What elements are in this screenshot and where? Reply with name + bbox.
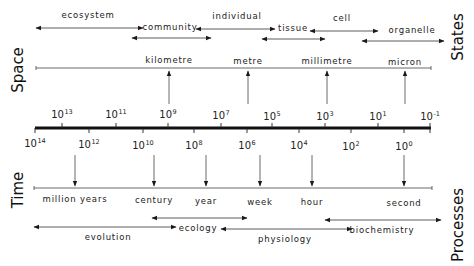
processes-axis-label: Processes xyxy=(451,188,466,262)
state-label-cell: cell xyxy=(333,14,351,23)
exponent-label-14: 1014 xyxy=(24,138,46,149)
exponent-label-0: 100 xyxy=(395,141,412,152)
exponent-label-12: 1012 xyxy=(78,139,100,150)
states-axis-label: States xyxy=(451,13,466,61)
exponent-label-8: 108 xyxy=(185,140,202,151)
exponent-label-3: 103 xyxy=(316,111,333,122)
state-label-tissue: tissue xyxy=(278,24,308,33)
time-unit-second: second xyxy=(386,199,421,208)
exponent-label-9: 109 xyxy=(159,109,176,120)
space-unit-millimetre: millimetre xyxy=(301,57,352,66)
log-axis xyxy=(35,123,431,133)
state-label-ecosystem: ecosystem xyxy=(61,11,114,20)
space-scale xyxy=(36,66,431,104)
space-time-scale-diagram: Space States Time Processes ecosystem co… xyxy=(0,0,474,266)
exponent-label-13: 1013 xyxy=(51,109,73,120)
time-unit-week: week xyxy=(247,198,273,207)
process-label-evolution: evolution xyxy=(85,233,132,242)
exponent-label-11: 1011 xyxy=(105,109,127,120)
process-label-biochemistry: biochemistry xyxy=(350,226,415,235)
time-unit-hour: hour xyxy=(301,198,324,207)
state-label-individual: individual xyxy=(212,12,261,21)
space-axis-label: Space xyxy=(11,47,26,93)
time-axis-label: Time xyxy=(11,172,26,209)
exponent-label-2: 102 xyxy=(342,141,359,152)
exponent-label-1: 101 xyxy=(369,111,386,122)
space-unit-kilometre: kilometre xyxy=(145,56,192,65)
time-unit-year: year xyxy=(195,197,217,206)
exponent-label-minus-1: 10-1 xyxy=(420,111,440,122)
exponent-label-7: 107 xyxy=(212,110,229,121)
time-unit-million-years: million years xyxy=(43,195,108,204)
process-label-physiology: physiology xyxy=(258,235,312,244)
time-scale xyxy=(34,155,432,190)
state-label-community: community xyxy=(142,23,197,32)
exponent-label-6: 106 xyxy=(238,140,255,151)
process-label-ecology: ecology xyxy=(179,224,218,233)
space-unit-micron: micron xyxy=(388,58,422,67)
state-label-organelle: organelle xyxy=(389,26,436,35)
exponent-label-4: 104 xyxy=(290,140,307,151)
exponent-label-5: 105 xyxy=(263,111,280,122)
space-unit-metre: metre xyxy=(233,57,262,66)
exponent-label-10: 1010 xyxy=(132,140,154,151)
time-unit-century: century xyxy=(135,196,173,205)
states-arrows xyxy=(36,28,444,41)
